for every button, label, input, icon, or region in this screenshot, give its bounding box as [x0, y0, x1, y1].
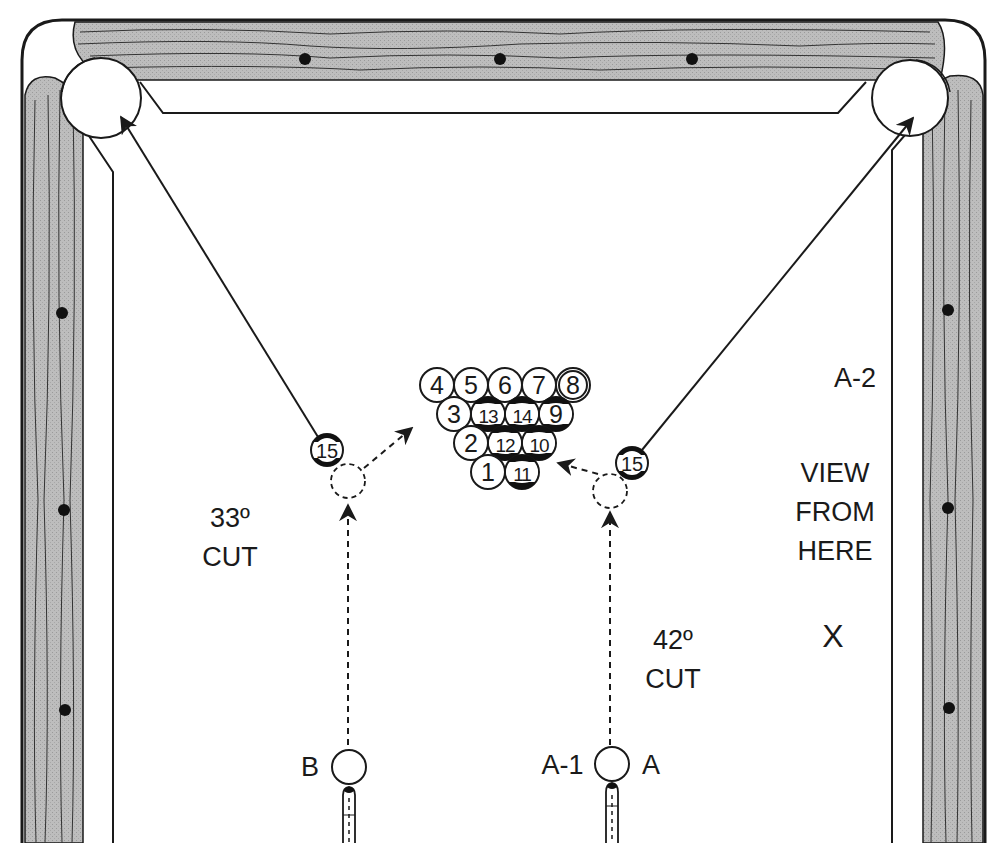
label-view-line1: VIEW [780, 460, 890, 487]
svg-text:7: 7 [532, 371, 546, 399]
right-rail [923, 75, 983, 843]
rack-ball-1: 1 [471, 455, 505, 489]
rack-ball-11: 11 [505, 455, 539, 490]
svg-text:3: 3 [447, 400, 461, 428]
svg-text:13: 13 [478, 406, 498, 427]
label-cue-a1: A-1 [535, 752, 590, 779]
svg-text:6: 6 [498, 371, 512, 399]
diamond-marker [942, 304, 954, 316]
object-ball-15-left: 15 [311, 434, 343, 467]
svg-text:10: 10 [529, 435, 549, 456]
pool-table-diagram: 15 15 4567831314921210111 [0, 0, 1005, 843]
label-view-line3: HERE [780, 538, 890, 565]
svg-text:5: 5 [464, 371, 478, 399]
diamond-marker [56, 307, 68, 319]
diamond-marker [943, 702, 955, 714]
diamond-marker [686, 53, 698, 65]
label-view-line2: FROM [780, 499, 890, 526]
svg-text:12: 12 [495, 435, 515, 456]
corner-pocket-left [61, 58, 141, 138]
svg-text:1: 1 [481, 458, 495, 486]
object-ball-15-right: 15 [616, 447, 648, 480]
svg-text:15: 15 [316, 440, 338, 462]
view-marker-x: X [808, 620, 858, 652]
diamond-marker [942, 502, 954, 514]
svg-text:9: 9 [549, 400, 563, 428]
svg-text:8: 8 [566, 371, 580, 399]
cue-ball-a [595, 747, 629, 781]
diamond-marker [58, 504, 70, 516]
label-cut-right-angle: 42º [628, 627, 718, 654]
svg-text:2: 2 [464, 429, 478, 457]
label-cut-right: 42º CUT [628, 627, 718, 693]
label-view-from-here: VIEW FROM HERE [780, 460, 890, 565]
svg-text:15: 15 [621, 453, 643, 475]
label-cut-left-angle: 33º [185, 505, 275, 532]
svg-text:14: 14 [512, 406, 533, 427]
diamond-marker [59, 704, 71, 716]
label-cut-right-word: CUT [628, 666, 718, 693]
diamond-marker [494, 53, 506, 65]
label-cue-a: A [636, 752, 666, 779]
label-cut-left-word: CUT [185, 544, 275, 571]
cue-ball-b [332, 750, 366, 784]
top-rail [73, 22, 944, 80]
label-cut-left: 33º CUT [185, 505, 275, 571]
label-a2: A-2 [815, 365, 895, 392]
svg-text:11: 11 [513, 464, 531, 485]
left-rail [25, 77, 83, 843]
svg-text:4: 4 [430, 371, 444, 399]
diamond-marker [299, 53, 311, 65]
corner-pocket-right [872, 60, 950, 136]
label-cue-b: B [295, 754, 325, 781]
